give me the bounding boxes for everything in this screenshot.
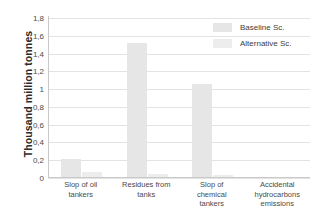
bar-chart: Thousand million tonnes 1,81,61,41,210,8… <box>0 0 320 221</box>
y-tick-label: 1,4 <box>33 49 44 58</box>
y-tick-label: 1,2 <box>33 67 44 76</box>
legend-item[interactable]: Alternative Sc. <box>213 39 292 48</box>
chart-legend: Baseline Sc.Alternative Sc. <box>213 23 292 55</box>
x-tick-label-line: emissions <box>246 199 310 209</box>
x-tick-label-line: Slop of oil <box>49 180 113 190</box>
x-axis-line <box>48 177 310 178</box>
y-tick-label: 0,4 <box>33 138 44 147</box>
y-tick-label: 0 <box>40 174 44 183</box>
y-tick-label: 0,6 <box>33 120 44 129</box>
x-tick-label-line: tankers <box>49 190 113 200</box>
bar-baseline[interactable] <box>192 84 212 178</box>
x-tick-label-line: hydrocarbons <box>246 190 310 200</box>
x-tick-label-line: chemical <box>180 190 244 200</box>
legend-label: Alternative Sc. <box>240 39 292 48</box>
bar-baseline[interactable] <box>127 43 147 178</box>
y-tick-label: 0,2 <box>33 156 44 165</box>
x-axis-labels: Slop of oiltankersResidues fromtanksSlop… <box>48 180 310 209</box>
y-tick-label: 1,6 <box>33 31 44 40</box>
x-tick-label-line: Slop of <box>180 180 244 190</box>
bar-group <box>48 18 114 178</box>
x-tick-label-line: Accidental <box>246 180 310 190</box>
x-tick-label-line: tankers <box>180 199 244 209</box>
bar-group <box>114 18 180 178</box>
y-tick-label: 0,8 <box>33 102 44 111</box>
bar-baseline[interactable] <box>61 159 81 178</box>
x-tick-label: Accidentalhydrocarbonsemissions <box>245 180 311 209</box>
x-tick-label: Slop ofchemicaltankers <box>179 180 245 209</box>
x-tick-label: Slop of oiltankers <box>48 180 114 209</box>
y-tick-label: 1,8 <box>33 14 44 23</box>
legend-item[interactable]: Baseline Sc. <box>213 23 292 32</box>
y-tick-label: 1 <box>40 85 44 94</box>
legend-swatch <box>213 23 232 32</box>
legend-swatch <box>213 39 232 48</box>
x-tick-label: Residues fromtanks <box>114 180 180 209</box>
legend-label: Baseline Sc. <box>240 23 284 32</box>
gridline <box>48 178 310 179</box>
x-tick-label-line: tanks <box>115 190 179 200</box>
x-tick-label-line: Residues from <box>115 180 179 190</box>
